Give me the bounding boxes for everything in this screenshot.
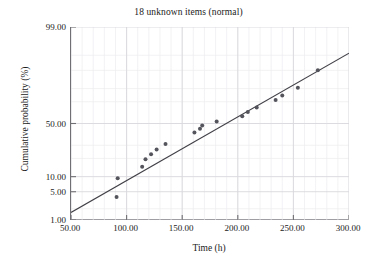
y-axis-title: Cumulative probability (%) [20, 19, 30, 219]
x-tick-label: 250.00 [280, 223, 305, 233]
y-tick-label: 10.00 [6, 172, 66, 182]
x-axis-title: Time (h) [70, 243, 348, 253]
x-tick-label: 200.00 [224, 223, 249, 233]
plot-canvas [71, 27, 349, 220]
chart-title: 18 unknown items (normal) [0, 7, 377, 17]
data-point [240, 114, 244, 118]
probability-plot: 18 unknown items (normal) 1.005.0010.005… [0, 0, 377, 268]
y-tick-label: 5.00 [6, 187, 66, 197]
data-point [296, 86, 300, 90]
data-point [274, 98, 278, 102]
data-point [255, 106, 259, 110]
x-tick-label: 300.00 [336, 223, 361, 233]
data-point [164, 142, 168, 146]
data-point [246, 110, 250, 114]
data-point [116, 176, 120, 180]
y-tick-label: 99.00 [6, 22, 66, 32]
data-point [115, 195, 119, 199]
plot-area [70, 27, 348, 220]
y-tick-label: 1.00 [6, 215, 66, 225]
data-point [192, 130, 196, 134]
data-point [155, 148, 159, 152]
major-gridlines [71, 27, 349, 220]
data-point [140, 165, 144, 169]
fit-line-group [71, 53, 349, 212]
data-point [149, 152, 153, 156]
fit-line [71, 53, 349, 212]
y-tick-label: 50.00 [6, 119, 66, 129]
data-point [215, 119, 219, 123]
data-point [280, 94, 284, 98]
x-tick-label: 50.00 [60, 223, 80, 233]
x-tick-label: 100.00 [113, 223, 138, 233]
x-tick-label: 150.00 [169, 223, 194, 233]
data-point [316, 68, 320, 72]
data-point [200, 124, 204, 128]
data-point [144, 157, 148, 161]
